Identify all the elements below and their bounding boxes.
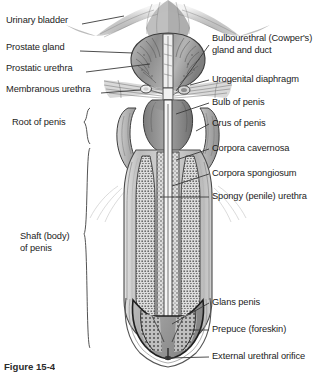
label-prostate-gland: Prostate gland	[6, 42, 65, 53]
corpora-cavernosa-left	[136, 156, 155, 322]
leader-prostate-gland	[80, 51, 133, 53]
prostatic-urethra	[163, 34, 173, 88]
label-shaft-of-penis-line2: of penis	[20, 243, 52, 254]
label-urogenital-diaphragm: Urogenital diaphragm	[212, 74, 299, 85]
label-crus-of-penis: Crus of penis	[212, 118, 265, 129]
figure-caption: Figure 15-4	[4, 361, 55, 372]
brace-root-of-penis	[84, 108, 90, 144]
figure-canvas: Urinary bladder Prostate gland Prostatic…	[0, 0, 336, 372]
label-prostatic-urethra: Prostatic urethra	[6, 63, 73, 74]
label-urinary-bladder: Urinary bladder	[6, 15, 68, 26]
corpora-cavernosa-right	[181, 156, 200, 322]
label-corpora-spongiosum: Corpora spongiosum	[212, 168, 297, 179]
brace-shaft-of-penis	[84, 148, 90, 348]
label-root-of-penis: Root of penis	[12, 117, 65, 128]
label-bulbourethral-gland-line2: gland and duct	[212, 45, 272, 56]
label-glans-penis: Glans penis	[212, 297, 260, 308]
label-membranous-urethra: Membranous urethra	[6, 84, 91, 95]
anatomy-illustration	[0, 0, 336, 372]
label-external-urethral-orifice: External urethral orifice	[212, 351, 305, 362]
label-bulb-of-penis: Bulb of penis	[212, 97, 264, 108]
label-spongy-urethra: Spongy (penile) urethra	[212, 191, 307, 202]
spongy-urethra	[164, 100, 172, 348]
label-bulbourethral-gland-line1: Bulbourethral (Cowper's)	[212, 33, 312, 44]
membranous-urethra	[163, 88, 173, 100]
label-shaft-of-penis-line1: Shaft (body)	[20, 231, 69, 242]
label-prepuce: Prepuce (foreskin)	[212, 324, 286, 335]
label-corpora-cavernosa: Corpora cavernosa	[212, 143, 289, 154]
